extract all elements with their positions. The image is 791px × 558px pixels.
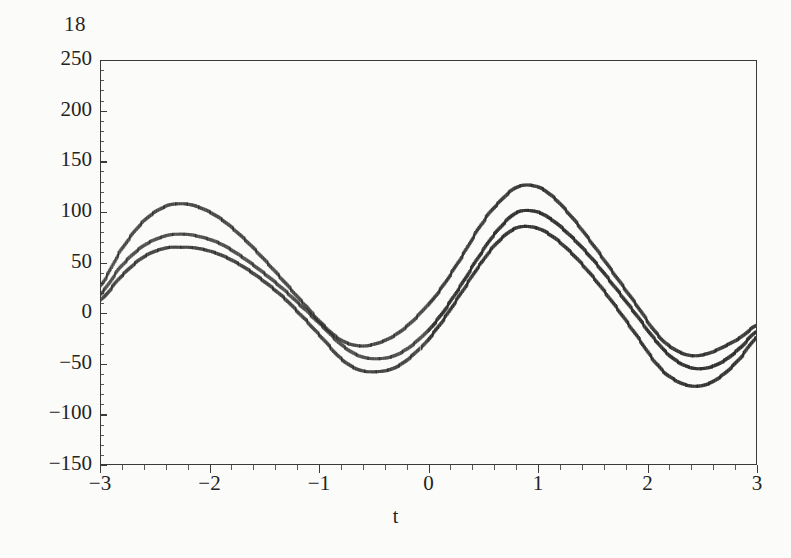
- x-tick-minor: [626, 465, 627, 470]
- x-tick-minor: [407, 465, 408, 470]
- x-tick-minor: [275, 465, 276, 470]
- x-tick-minor: [297, 465, 298, 470]
- x-tick-minor: [144, 465, 145, 470]
- x-tick-minor: [735, 465, 736, 470]
- x-tick-minor: [713, 465, 714, 470]
- x-tick-minor: [582, 465, 583, 470]
- x-tick-minor: [669, 465, 670, 470]
- y-tick-label: 200: [61, 97, 93, 122]
- y-tick-label: 150: [61, 147, 93, 172]
- y-tick-label: 0: [82, 299, 93, 324]
- x-tick-label: 3: [752, 471, 763, 496]
- x-tick-label: 1: [533, 471, 544, 496]
- x-tick-minor: [560, 465, 561, 470]
- x-tick-minor: [450, 465, 451, 470]
- x-tick-label: 0: [423, 471, 434, 496]
- figure-root: 18 −150−100−50050100150200250 −3−2−10123…: [0, 0, 791, 558]
- x-tick-minor: [188, 465, 189, 470]
- x-tick-minor: [472, 465, 473, 470]
- y-tick-label: 250: [61, 46, 93, 71]
- x-tick-minor: [691, 465, 692, 470]
- x-tick-minor: [122, 465, 123, 470]
- x-tick-minor: [604, 465, 605, 470]
- x-tick-minor: [341, 465, 342, 470]
- x-tick-minor: [516, 465, 517, 470]
- x-tick-label: −1: [308, 471, 330, 496]
- x-axis-tick-labels: −3−2−10123: [0, 471, 791, 503]
- x-tick-minor: [385, 465, 386, 470]
- x-tick-minor: [363, 465, 364, 470]
- y-tick-label: −50: [59, 350, 92, 375]
- x-tick-label: −2: [198, 471, 220, 496]
- x-tick-minor: [231, 465, 232, 470]
- x-tick-minor: [166, 465, 167, 470]
- x-axis-title: t: [0, 505, 791, 528]
- x-tick-minor: [253, 465, 254, 470]
- x-tick-label: −3: [89, 471, 111, 496]
- y-tick-label: −100: [49, 400, 92, 425]
- y-tick-label: 50: [71, 249, 92, 274]
- x-tick-label: 2: [642, 471, 653, 496]
- plot-frame: [100, 60, 757, 465]
- x-tick-minor: [494, 465, 495, 470]
- y-tick-label: 100: [61, 198, 93, 223]
